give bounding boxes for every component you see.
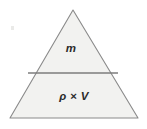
upper-section-label-mass: m bbox=[66, 43, 76, 55]
triangle-graphic bbox=[0, 0, 147, 129]
lower-section-label-density-volume: ρ × V bbox=[59, 91, 89, 103]
scan-artifact-speck bbox=[11, 26, 14, 30]
formula-triangle-diagram: m ρ × V bbox=[0, 0, 147, 129]
